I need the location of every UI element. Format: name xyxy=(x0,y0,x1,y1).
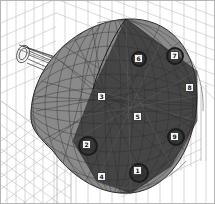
callout-label-1: 1 xyxy=(133,166,142,175)
sphere-body xyxy=(29,18,203,196)
callout-label-2: 2 xyxy=(82,140,91,149)
callout-label-7: 7 xyxy=(170,51,179,60)
callout-label-8: 8 xyxy=(185,83,194,92)
callout-label-9: 9 xyxy=(170,132,179,141)
callout-label-6: 6 xyxy=(134,54,143,63)
callout-label-3: 3 xyxy=(97,92,106,101)
callout-label-5: 5 xyxy=(133,112,142,121)
diagram-frame: 1 2 3 4 5 6 7 8 9 xyxy=(0,0,215,204)
callout-label-4: 4 xyxy=(97,172,106,181)
wireframe-canvas xyxy=(1,1,215,204)
